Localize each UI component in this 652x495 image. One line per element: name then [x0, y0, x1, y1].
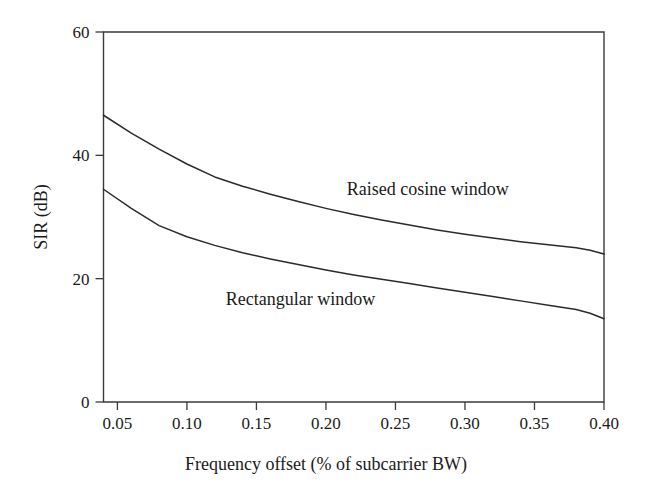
y-tick-label: 0 [81, 393, 90, 412]
x-axis-ticks [117, 402, 604, 410]
x-tick-label: 0.30 [450, 414, 480, 433]
x-tick-label: 0.10 [172, 414, 202, 433]
annotation-rectangular-window: Rectangular window [226, 289, 375, 309]
y-axis-ticks [96, 32, 104, 402]
y-tick-label: 60 [73, 23, 90, 42]
chart-figure: 0.050.100.150.200.250.300.350.40 0204060… [0, 0, 652, 495]
sir-vs-frequency-offset-chart: 0.050.100.150.200.250.300.350.40 0204060… [0, 0, 652, 495]
x-tick-label: 0.40 [589, 414, 619, 433]
axis-frame [104, 32, 605, 402]
curve-annotations-group: Raised cosine windowRectangular window [226, 179, 509, 308]
x-tick-label: 0.20 [311, 414, 341, 433]
x-tick-label: 0.25 [381, 414, 411, 433]
y-axis-title: SIR (dB) [31, 184, 52, 250]
annotation-raised-cosine-window: Raised cosine window [347, 179, 509, 199]
y-tick-label: 40 [73, 146, 90, 165]
y-axis-tick-labels: 0204060 [73, 23, 90, 412]
plot-frame [104, 32, 605, 402]
y-tick-label: 20 [73, 270, 90, 289]
x-tick-label: 0.35 [520, 414, 550, 433]
x-tick-label: 0.05 [103, 414, 133, 433]
x-axis-tick-labels: 0.050.100.150.200.250.300.350.40 [103, 414, 619, 433]
x-axis-title: Frequency offset (% of subcarrier BW) [185, 454, 467, 475]
x-tick-label: 0.15 [242, 414, 272, 433]
